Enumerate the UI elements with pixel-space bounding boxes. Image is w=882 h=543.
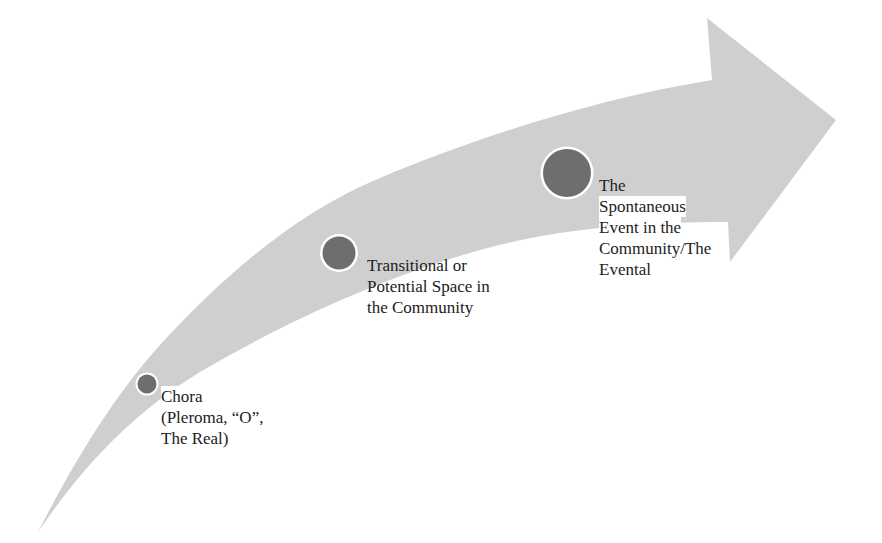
label-line: Chora — [161, 386, 203, 407]
label-line: Transitional or — [367, 255, 490, 276]
label-line: Spontaneous — [599, 196, 686, 217]
stage-node-eventful — [541, 147, 594, 200]
label-line: The Real) — [161, 428, 229, 449]
label-line: Event in the — [599, 217, 681, 238]
diagram-canvas: Chora (Pleroma, “O”, The Real) Transitio… — [0, 0, 882, 543]
label-line: The — [599, 175, 625, 196]
label-line: Potential Space in — [367, 276, 490, 297]
stage-node-chora — [136, 373, 159, 396]
label-line: Community/The — [599, 238, 711, 259]
label-line: (Pleroma, “O”, — [161, 407, 263, 428]
label-line: the Community — [367, 297, 490, 318]
stage-label-chora: Chora (Pleroma, “O”, The Real) — [161, 386, 263, 449]
stage-label-eventful: The Spontaneous Event in the Community/T… — [599, 175, 711, 280]
stage-node-transitional — [320, 234, 358, 272]
label-line: Evental — [599, 259, 651, 280]
stage-label-transitional: Transitional or Potential Space in the C… — [367, 255, 490, 318]
